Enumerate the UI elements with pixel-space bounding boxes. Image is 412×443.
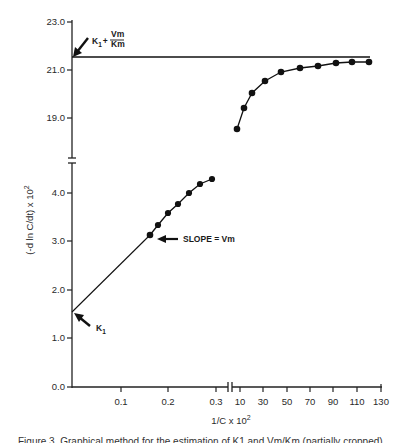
x-tick-label: 0.2 — [161, 396, 174, 407]
x-tick-label: 90 — [328, 396, 339, 407]
chart: 23.0 21.0 19.0 4.0 3.0 2.0 1.0 0.0 (-d l… — [0, 0, 412, 443]
annotation-k1-plus-vm-km: K1+ — [92, 36, 108, 48]
y-axis-label: (-d ln C/dt) x 102 — [23, 185, 35, 254]
lower-series-markers — [147, 176, 215, 238]
arrow-icon — [157, 235, 178, 243]
x-axis-label: 1/C x 102 — [211, 414, 250, 426]
extrapolation-line — [72, 235, 150, 312]
annotation-k1: K1 — [96, 323, 106, 335]
y-ticks-upper — [67, 22, 72, 118]
x-tick-label: 110 — [349, 396, 364, 407]
y-tick-label: 4.0 — [52, 187, 65, 198]
y-tick-label: 23.0 — [47, 16, 66, 27]
y-tick-label: 1.0 — [52, 332, 65, 343]
annotation-slope: SLOPE = Vm — [183, 234, 235, 244]
x-tick-label: 30 — [258, 396, 269, 407]
annotation-vm: Vm — [111, 29, 125, 39]
x-tick-label: 70 — [305, 396, 316, 407]
annotation-km: Km — [111, 39, 125, 49]
arrow-icon — [74, 313, 90, 326]
x-ticks-upper — [240, 384, 381, 392]
upper-series-line — [237, 62, 369, 129]
x-tick-label: 10 — [235, 396, 246, 407]
figure-caption: Figure 3. Graphical method for the estim… — [0, 434, 412, 443]
x-tick-label: 50 — [282, 396, 293, 407]
upper-series-markers — [234, 59, 373, 133]
x-tick-label: 0.3 — [209, 396, 222, 407]
y-ticks-lower — [67, 193, 72, 387]
y-tick-label: 21.0 — [47, 64, 66, 75]
x-tick-label: 0.1 — [114, 396, 127, 407]
y-tick-label: 19.0 — [47, 112, 66, 123]
x-ticks-lower — [121, 387, 216, 392]
y-tick-label: 3.0 — [52, 235, 65, 246]
arrow-icon — [73, 38, 88, 57]
x-tick-label: 130 — [373, 396, 389, 407]
y-tick-label: 2.0 — [52, 284, 65, 295]
y-tick-label: 0.0 — [52, 381, 65, 392]
